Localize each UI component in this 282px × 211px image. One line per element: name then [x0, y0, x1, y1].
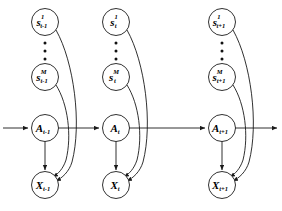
diagram-canvas: s1t-1 sMt-1 At-1 Xt-1: [0, 0, 282, 211]
slice-t-plus-1: s1t+1 sMt+1 At+1 Xt+1: [209, 9, 254, 199]
slice-t-minus-1: s1t-1 sMt-1 At-1 Xt-1: [32, 9, 77, 199]
ellipsis-2: [115, 42, 118, 61]
graphical-model-diagram: s1t-1 sMt-1 At-1 Xt-1: [0, 0, 282, 211]
slice-t: s1t sMt At Xt: [103, 9, 148, 199]
ellipsis-3: [221, 42, 224, 61]
ellipsis-1: [44, 42, 47, 61]
